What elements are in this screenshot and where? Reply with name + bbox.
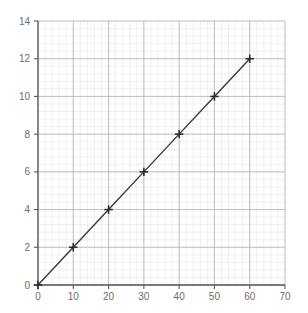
y-axis-tick-label: 14 [19, 16, 31, 27]
x-axis-tick-label: 60 [244, 291, 256, 302]
line-chart: 010203040506070 02468101214 [0, 0, 308, 313]
x-axis-tick-label: 30 [138, 291, 150, 302]
x-axis-tick-label: 50 [209, 291, 221, 302]
x-axis-tick-label: 20 [103, 291, 115, 302]
y-axis-tick-label: 8 [24, 129, 30, 140]
x-axis-tick-label: 10 [68, 291, 80, 302]
x-axis-tick-label: 40 [174, 291, 186, 302]
chart-container: 010203040506070 02468101214 [0, 0, 308, 313]
y-axis-tick-label: 4 [24, 204, 30, 215]
y-axis-tick-label: 12 [19, 53, 31, 64]
y-axis-tick-label: 2 [24, 242, 30, 253]
y-axis-tick-label: 0 [24, 280, 30, 291]
x-axis-tick-label: 70 [279, 291, 291, 302]
y-axis-tick-label: 6 [24, 166, 30, 177]
x-axis-tick-label: 0 [35, 291, 41, 302]
y-axis-tick-label: 10 [19, 91, 31, 102]
